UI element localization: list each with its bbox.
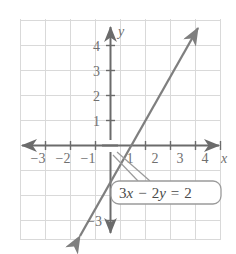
- eq-var-x: x: [126, 185, 134, 201]
- x-tick-label-3: 3: [177, 151, 184, 166]
- x-tick-label-4: 4: [202, 151, 209, 166]
- eq-coef-a: 3: [119, 185, 127, 201]
- y-tick-label--3: −3: [87, 214, 102, 229]
- eq-minus: −: [138, 185, 146, 201]
- y-tick-label-2: 2: [93, 89, 100, 104]
- y-tick-label-1: 1: [93, 114, 100, 129]
- x-tick-label--3: −3: [31, 151, 46, 166]
- x-tick-label--2: −2: [56, 151, 71, 166]
- eq-coef-b: 2: [152, 185, 160, 201]
- x-tick-label-2: 2: [152, 151, 159, 166]
- x-tick-label--1: −1: [81, 151, 96, 166]
- y-tick-label-4: 4: [93, 39, 100, 54]
- plotted-line: [80, 28, 198, 236]
- eq-equals: =: [171, 185, 179, 201]
- grid-lines: [20, 19, 221, 240]
- y-tick-label-3: 3: [93, 64, 100, 79]
- y-axis-label: y: [116, 24, 125, 39]
- coordinate-plane-svg: −3 −2 −1 1 2 3 4 4 3 2 1 −3 y x 3x−2y=2: [0, 0, 236, 254]
- eq-var-y: y: [157, 185, 166, 201]
- graph-figure: −3 −2 −1 1 2 3 4 4 3 2 1 −3 y x 3x−2y=2: [0, 0, 236, 254]
- x-axis: [22, 141, 221, 150]
- eq-constant: 2: [184, 185, 192, 201]
- x-axis-label: x: [220, 151, 228, 166]
